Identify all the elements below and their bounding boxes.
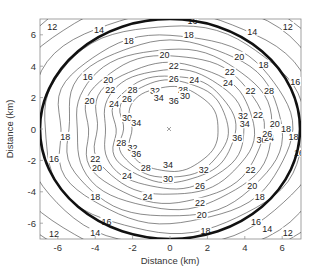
contour-chart: 1214161814121820222426202428303616202220… (0, 0, 318, 279)
contour-label: 22 (245, 165, 255, 175)
contour-label: 34 (154, 93, 164, 103)
contour-label: 22 (169, 61, 179, 71)
contour-label: 24 (109, 99, 119, 109)
contour-label: 26 (122, 94, 132, 104)
contour-label: 20 (159, 50, 169, 60)
y-tick-label: 0 (31, 124, 36, 135)
x-tick-label: -4 (91, 242, 99, 253)
contour-label: 18 (124, 36, 134, 46)
contour-label: 12 (283, 228, 293, 238)
x-axis: -6-4-20246 Distance (km) (54, 236, 285, 266)
contour-label: 18 (90, 192, 100, 202)
contour-label: 20 (92, 163, 102, 173)
x-tick-label: 6 (280, 242, 285, 253)
contour-label: 26 (262, 129, 272, 139)
contour-label: 28 (141, 163, 151, 173)
y-tick-label: 4 (31, 61, 36, 72)
x-tick-label: 4 (242, 242, 247, 253)
contour-label: 32 (199, 165, 209, 175)
contour-label: 28 (128, 85, 138, 95)
y-tick-label: -4 (28, 186, 36, 197)
contour-label: 26 (169, 74, 179, 84)
contour-label: 22 (225, 67, 235, 77)
contour-label: 20 (247, 181, 257, 191)
contour-label: 22 (245, 86, 255, 96)
contour-label: 24 (223, 78, 233, 88)
contour-label: 36 (131, 149, 141, 159)
contour-label: 16 (83, 72, 93, 82)
y-axis-label: Distance (km) (4, 100, 15, 159)
contour-label: 18 (255, 192, 265, 202)
contour-label: 22 (195, 198, 205, 208)
contour-label: 18 (258, 60, 268, 70)
contour-label: 22 (105, 85, 115, 95)
contour-label: 16 (251, 217, 261, 227)
contour-label: 18 (184, 30, 194, 40)
contour-label: 36 (169, 96, 179, 106)
contour-label: 36 (232, 133, 242, 143)
x-axis-label: Distance (km) (141, 255, 200, 266)
contour-label: 12 (283, 22, 293, 32)
contour-label: 34 (163, 160, 173, 170)
contour-label: 28 (264, 86, 274, 96)
contour-label: 20 (197, 210, 207, 220)
contour-label: 34 (131, 118, 141, 128)
y-tick-label: 6 (31, 29, 36, 40)
contour-label: 20 (85, 96, 95, 106)
contour-label: 26 (195, 181, 205, 191)
contour-label: 12 (47, 22, 57, 32)
contour-label: 20 (234, 52, 244, 62)
y-axis: 6420-2-4-6 Distance (km) (4, 29, 43, 228)
contour-label: 24 (189, 75, 199, 85)
x-tick-label: 2 (205, 242, 210, 253)
contour-label: 14 (247, 27, 257, 37)
y-tick-label: -2 (28, 155, 36, 166)
y-tick-label: -6 (28, 218, 36, 229)
plot-area: 1214161814121820222426202428303616202220… (0, 0, 318, 275)
contour-label: 28 (116, 138, 126, 148)
contour-label: 18 (281, 124, 291, 134)
contour-label: 34 (240, 119, 250, 129)
contour-label: 30 (180, 91, 190, 101)
x-tick-label: -6 (54, 242, 62, 253)
contour-label: 14 (262, 224, 272, 234)
contour-label: 22 (253, 110, 263, 120)
contour-label: 20 (270, 119, 280, 129)
y-tick-label: 2 (31, 92, 36, 103)
x-tick-label: -2 (128, 242, 136, 253)
x-tick-label: 0 (167, 242, 172, 253)
contour-label: 24 (122, 171, 132, 181)
contour-label: 16 (290, 77, 300, 87)
contour-label: 18 (60, 132, 70, 142)
contour-label: 30 (163, 174, 173, 184)
contour-label: 16 (49, 154, 59, 164)
contour-label: 24 (143, 192, 153, 202)
